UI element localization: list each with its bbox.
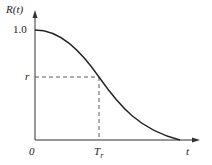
y-tick-r: r — [25, 70, 29, 82]
y-axis-arrow-icon — [33, 10, 38, 18]
y-tick-1: 1.0 — [13, 23, 27, 35]
x-axis-label: t — [186, 145, 189, 157]
x-tick-tr: Tr — [94, 145, 103, 160]
origin-label: 0 — [29, 145, 35, 157]
y-axis-label: R(t) — [6, 3, 23, 15]
reliability-curve — [35, 30, 180, 140]
x-axis-arrow-icon — [192, 138, 200, 143]
x-tick-tr-sub: r — [100, 151, 103, 160]
reliability-plot — [0, 0, 212, 165]
